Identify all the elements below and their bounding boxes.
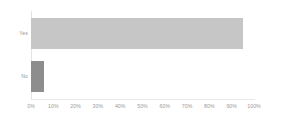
value-tick-label: 50% — [137, 104, 148, 109]
bar-yes[interactable] — [31, 18, 243, 49]
bar-row-no — [31, 55, 254, 98]
value-tick-label: 40% — [115, 104, 126, 109]
value-tick-label: 60% — [160, 104, 171, 109]
value-tick-label: 10% — [48, 104, 59, 109]
category-axis: Yes No — [6, 12, 28, 98]
value-tick-label: 80% — [204, 104, 215, 109]
category-label-no: No — [6, 74, 28, 79]
bar-no[interactable] — [31, 61, 44, 92]
value-axis: 0%10%20%30%40%50%60%70%80%90%100% — [31, 104, 254, 116]
bar-chart: Yes No 0%10%20%30%40%50%60%70%80%90%100% — [0, 0, 294, 127]
category-label-yes: Yes — [6, 31, 28, 36]
category-tick-yes: Yes — [6, 12, 28, 55]
category-tick-no: No — [6, 55, 28, 98]
value-tick-label: 90% — [226, 104, 237, 109]
value-tick-label: 70% — [182, 104, 193, 109]
bar-row-yes — [31, 12, 254, 55]
plot-area — [31, 12, 254, 98]
value-tick-label: 20% — [70, 104, 81, 109]
value-tick-label: 100% — [247, 104, 260, 109]
value-tick-label: 0% — [27, 104, 35, 109]
category-axis-line — [31, 99, 255, 100]
value-tick-label: 30% — [93, 104, 104, 109]
